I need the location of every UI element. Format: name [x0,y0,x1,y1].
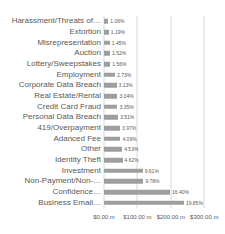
bar [104,94,117,99]
category-label: Real Estate/Rental [0,92,104,100]
x-axis-tick-label: $300.00 m [190,214,218,220]
chart-row: Adanced Fee4.09% [0,133,221,144]
category-label: 419/Overpayment [0,124,104,132]
category-label: Employment [0,71,104,79]
plot-cell: 9.78% [104,176,221,187]
plot-cell: 2.73% [104,69,221,80]
category-label: Identity Theft [0,156,104,164]
plot-cell: 3.13% [104,80,221,91]
category-label: Non-Payment/Non-… [0,177,104,185]
value-label: 4.09% [122,136,136,141]
category-label: Other [0,145,104,153]
category-label: Auction [0,49,104,57]
value-label: 4.53% [124,147,138,152]
plot-cell: 3.35% [104,101,221,112]
bar [104,147,122,152]
bar [104,30,109,35]
horizontal-bar-chart: Harassment/Threats of…1.06%Extortion1.19… [0,0,225,234]
chart-row: Harassment/Threats of…1.06% [0,16,221,27]
value-label: 1.19% [111,30,125,35]
category-label: Adanced Fee [0,135,104,143]
category-label: Lottery/Sweepstakes [0,60,104,68]
value-label: 3.13% [119,83,133,88]
bar [104,126,120,131]
category-label: Personal Data Breach [0,113,104,121]
plot-cell: 3.51% [104,112,221,123]
chart-row: Identity Theft4.62% [0,155,221,166]
plot-cell: 4.09% [104,133,221,144]
category-label: Corporate Data Breach [0,81,104,89]
plot-cell: 19.85% [104,197,221,208]
chart-row: Extortion1.19% [0,27,221,38]
bar [104,40,110,45]
chart-rows: Harassment/Threats of…1.06%Extortion1.19… [0,16,221,208]
chart-row: Auction1.52% [0,48,221,59]
chart-row: Real Estate/Rental3.34% [0,91,221,102]
plot-cell: 4.53% [104,144,221,155]
bar [104,72,115,77]
plot-cell: 1.45% [104,37,221,48]
x-axis: $0.00 m$100.00 m$200.00 m$300.00 m [104,212,221,222]
value-label: 1.06% [110,19,124,24]
chart-row: Business Email…19.85% [0,197,221,208]
bar [104,104,117,109]
plot-cell: 9.61% [104,165,221,176]
chart-row: Lottery/Sweepstakes1.56% [0,59,221,70]
bar [104,190,170,195]
value-label: 1.56% [112,62,126,67]
category-label: Confidence… [0,188,104,196]
value-label: 1.52% [112,51,126,56]
value-label: 3.51% [120,115,134,120]
bar [104,168,143,173]
bar [104,158,123,163]
bar [104,62,110,67]
chart-row: Corporate Data Breach3.13% [0,80,221,91]
value-label: 1.45% [112,40,126,45]
chart-row: Investment9.61% [0,165,221,176]
category-label: Extortion [0,28,104,36]
plot-cell: 1.06% [104,16,221,27]
bar [104,115,118,120]
category-label: Business Email… [0,199,104,207]
chart-row: Non-Payment/Non-…9.78% [0,176,221,187]
category-label: Misrepresentation [0,39,104,47]
value-label: 3.97% [122,126,136,131]
category-label: Investment [0,167,104,175]
value-label: 19.85% [186,200,203,205]
category-label: Harassment/Threats of… [0,17,104,25]
chart-row: 419/Overpayment3.97% [0,123,221,134]
chart-row: Employment2.73% [0,69,221,80]
plot-cell: 3.34% [104,91,221,102]
chart-row: Misrepresentation1.45% [0,37,221,48]
value-label: 9.61% [145,168,159,173]
bar [104,201,184,206]
plot-cell: 1.19% [104,27,221,38]
chart-row: Personal Data Breach3.51% [0,112,221,123]
chart-row: Credit Card Fraud3.35% [0,101,221,112]
plot-cell: 1.52% [104,48,221,59]
value-label: 16.40% [172,190,189,195]
x-axis-tick-label: $200.00 m [157,214,185,220]
chart-row: Other4.53% [0,144,221,155]
value-label: 3.35% [119,104,133,109]
value-label: 4.62% [125,158,139,163]
category-label: Credit Card Fraud [0,103,104,111]
value-label: 9.78% [145,179,159,184]
bar [104,179,143,184]
chart-row: Confidence…16.40% [0,187,221,198]
bar [104,83,117,88]
value-label: 3.34% [119,94,133,99]
x-axis-tick-label: $0.00 m [93,214,115,220]
bar [104,19,108,24]
value-label: 2.73% [117,72,131,77]
bar [104,51,110,56]
plot-cell: 3.97% [104,123,221,134]
plot-cell: 1.56% [104,59,221,70]
plot-cell: 16.40% [104,187,221,198]
plot-cell: 4.62% [104,155,221,166]
bar [104,136,120,141]
x-axis-tick-label: $100.00 m [123,214,151,220]
